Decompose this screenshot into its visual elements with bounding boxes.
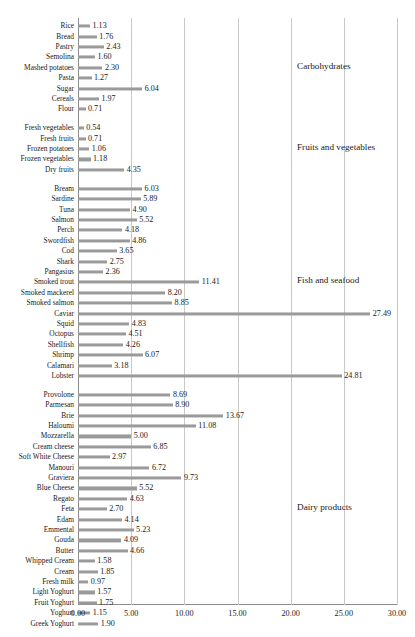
bar [78, 322, 129, 325]
bar-category-label: Cod [62, 247, 74, 254]
bar-row: Flour0.71 [0, 104, 415, 114]
bar-category-label: Regato [53, 495, 74, 502]
bar-row: Smoked salmon8.85 [0, 298, 415, 308]
bar [78, 25, 90, 28]
bar-value-label: 8.90 [173, 401, 190, 409]
bar-row: Sardine5.89 [0, 194, 415, 204]
bar-category-label: Cream [54, 568, 74, 575]
bar-value-label: 5.52 [137, 484, 154, 492]
bar-value-label: 0.71 [86, 105, 103, 113]
group-label: Dairy products [297, 503, 352, 512]
bar-value-label: 1.76 [97, 33, 114, 41]
bar [78, 529, 134, 532]
bar-category-label: Gouda [54, 537, 74, 544]
bar-category-label: Cereals [52, 95, 74, 102]
bar-value-label: 2.43 [104, 43, 121, 51]
bar-row: Haloumi11.08 [0, 421, 415, 431]
bar-value-label: 0.71 [86, 135, 103, 143]
x-tick-label: 30.00 [388, 609, 406, 618]
bar-category-label: Blue Cheese [37, 485, 74, 492]
bar-value-label: 1.60 [95, 53, 112, 61]
bar-category-label: Fresh vegetables [25, 125, 74, 132]
bar-row: Provolone8.69 [0, 390, 415, 400]
bar-category-label: Salmon [51, 216, 74, 223]
bar [78, 312, 370, 315]
bar-value-label: 4.51 [126, 330, 143, 338]
bar-category-label: Shrimp [52, 351, 74, 358]
bar-row: Semolina1.60 [0, 52, 415, 62]
bar-category-label: Haloumi [48, 422, 74, 429]
bar-row: Brie13.67 [0, 411, 415, 421]
bar-category-label: Edam [57, 516, 74, 523]
bar-row: Frozen vegetables1.18 [0, 154, 415, 164]
group-label: Carbohydrates [297, 62, 351, 71]
bar [78, 302, 172, 305]
bar-row: Bream6.03 [0, 184, 415, 194]
bar-row: Cod3.65 [0, 246, 415, 256]
bar-value-label: 4.35 [124, 166, 141, 174]
bar-category-label: Pangasius [44, 268, 74, 275]
bar [78, 364, 112, 367]
bar-row: Squid4.83 [0, 319, 415, 329]
group-label: Fruits and vegetables [297, 143, 375, 152]
bar [78, 466, 149, 469]
bar-value-label: 4.14 [122, 516, 139, 524]
bar [78, 270, 103, 273]
group-label: Fish and seafood [297, 276, 359, 285]
bar-category-label: Caviar [54, 310, 74, 317]
bar-row: Emmental5.23 [0, 525, 415, 535]
bar-value-label: 6.85 [151, 443, 168, 451]
bar-row: Dry fruits4.35 [0, 165, 415, 175]
bar-value-label: 1.27 [92, 74, 109, 82]
bar-row: Lobster24.81 [0, 371, 415, 381]
bar-category-label: Smoked salmon [27, 299, 74, 306]
bar-category-label: Dry fruits [45, 166, 74, 173]
bar-row: Feta2.70 [0, 504, 415, 514]
bar-category-label: Tuna [59, 206, 74, 213]
x-tick-label: 20.00 [281, 609, 299, 618]
bar-value-label: 6.72 [149, 464, 166, 472]
bar-value-label: 2.97 [110, 453, 127, 461]
bar-category-label: Shellfish [48, 341, 74, 348]
bar-value-label: 1.85 [98, 568, 115, 576]
bar-row: Octopus4.51 [0, 329, 415, 339]
bar-value-label: 4.90 [130, 206, 147, 214]
bar [78, 333, 126, 336]
bar [78, 591, 95, 594]
bar-value-label: 13.67 [223, 412, 244, 420]
bar-category-label: Brie [61, 412, 74, 419]
bar-value-label: 4.63 [127, 495, 144, 503]
bar [78, 45, 104, 48]
bar [78, 198, 141, 201]
bar-value-label: 6.07 [143, 351, 160, 359]
bar-category-label: Soft White Cheese [19, 454, 74, 461]
bar-value-label: 4.86 [130, 237, 147, 245]
bar-category-label: Feta [61, 506, 74, 513]
bar [78, 570, 98, 573]
bar-row: Mashed potatoes2.30 [0, 63, 415, 73]
bar-category-label: Manouri [49, 464, 74, 471]
bar [78, 581, 88, 584]
bar-category-label: Emmental [44, 526, 74, 533]
bar-row: Mozzarella5.00 [0, 431, 415, 441]
bar-row: Fresh vegetables0.54 [0, 123, 415, 133]
bar-value-label: 1.97 [99, 95, 116, 103]
bar-row: Shrimp6.07 [0, 350, 415, 360]
bar-row: Tuna4.90 [0, 204, 415, 214]
bar [78, 218, 137, 221]
bar-category-label: Smoked mackerel [21, 289, 74, 296]
x-tick-label: 25.00 [335, 609, 353, 618]
bar-value-label: 1.58 [95, 557, 112, 565]
bar [78, 137, 86, 140]
bar [78, 425, 196, 428]
bar-category-label: Squid [57, 320, 74, 327]
bar-category-label: Bream [54, 185, 74, 192]
bar-value-label: 5.00 [131, 432, 148, 440]
bar-row: Swordfish4.86 [0, 236, 415, 246]
bar-category-label: Sardine [51, 195, 74, 202]
bar-value-label: 1.90 [98, 620, 115, 628]
bar [78, 497, 127, 500]
bar-category-label: Frozen potatoes [27, 145, 74, 152]
bar-value-label: 3.18 [112, 362, 129, 370]
bar-row: Shellfish4.26 [0, 340, 415, 350]
